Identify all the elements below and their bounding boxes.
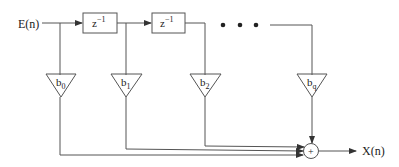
delay-label-1: z−1: [92, 15, 105, 29]
ellipsis-dots: [221, 23, 259, 28]
delay-label-2: z−1: [160, 15, 173, 29]
input-label: E(n): [18, 17, 39, 31]
sum-input-b2: [205, 97, 304, 147]
coef-label-bq: bq: [307, 76, 317, 91]
fir-filter-diagram: E(n) z−1 z−1: [0, 0, 399, 167]
summer-plus-symbol: +: [308, 146, 314, 157]
coef-label-b1: b1: [121, 76, 131, 91]
output-label: X(n): [362, 144, 385, 158]
sum-input-b1: [126, 97, 303, 151]
coef-label-b2: b2: [200, 76, 210, 91]
coef-label-b0: b0: [56, 76, 66, 91]
